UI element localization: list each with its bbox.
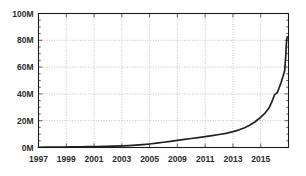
x-axis-tick-label: 2009 [168,154,187,164]
y-axis-tick-label: 80M [17,35,34,45]
x-axis-tick-label: 1997 [29,154,48,164]
plot-area-background [39,14,289,148]
chart-container: 0M20M40M60M80M100M 199719992001200320052… [0,0,306,176]
x-axis-tick-label: 2005 [140,154,159,164]
x-axis-tick-labels: 199719992001200320052009201120132015 [29,154,270,164]
x-axis-tick-label: 2013 [223,154,242,164]
y-axis-tick-label: 40M [17,89,34,99]
line-chart: 0M20M40M60M80M100M 199719992001200320052… [0,0,306,176]
y-axis-tick-label: 100M [12,9,33,19]
y-axis-tick-label: 0M [22,143,34,153]
x-axis-tick-label: 2001 [85,154,104,164]
y-axis-tick-label: 20M [17,116,34,126]
x-axis-tick-label: 2003 [112,154,131,164]
x-axis-tick-label: 1999 [57,154,76,164]
x-axis-tick-label: 2011 [196,154,215,164]
y-axis-tick-label: 60M [17,62,34,72]
x-axis-tick-label: 2015 [251,154,270,164]
